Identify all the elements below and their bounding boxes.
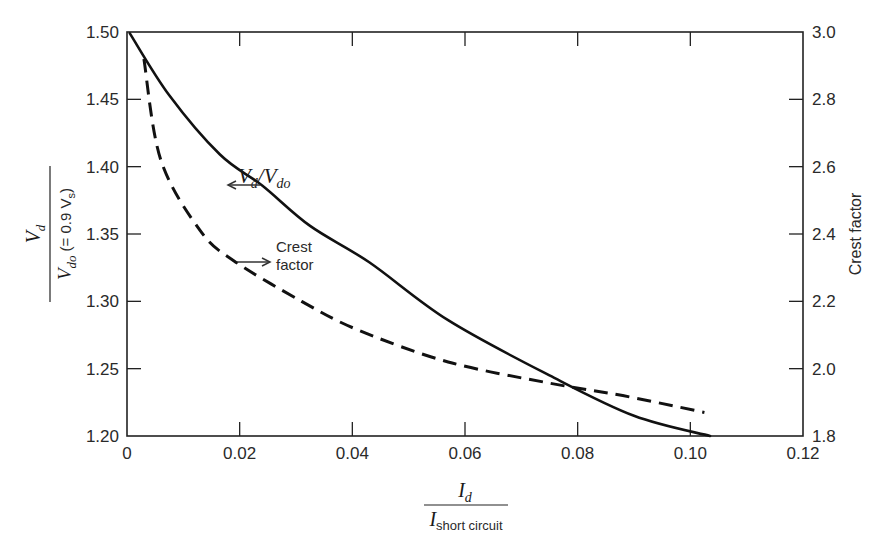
x-tick-label: 0.12: [786, 444, 819, 463]
y-left-tick-label: 1.30: [86, 292, 119, 311]
y-right-tick-label: 3.0: [812, 23, 836, 42]
series-crest-factor-line: [144, 59, 705, 413]
arrow-right-icon: [237, 258, 270, 266]
y-left-tick-label: 1.25: [86, 360, 119, 379]
annotation-crest-label-1: Crest: [276, 238, 313, 255]
y-left-tick-label: 1.45: [86, 90, 119, 109]
y-right-axis-label: Crest factor: [847, 192, 864, 275]
y-left-tick-label: 1.50: [86, 23, 119, 42]
x-tick-label: 0.04: [336, 444, 369, 463]
y-right-tick-label: 2.6: [812, 158, 836, 177]
annotation-vd-vdo-label: Vd/Vdo: [238, 164, 291, 191]
y-right-tick-label: 2.8: [812, 90, 836, 109]
series-vd-vdo-line: [130, 33, 710, 436]
x-tick-label: 0.08: [561, 444, 594, 463]
x-tick-label: 0.02: [223, 444, 256, 463]
x-tick-label: 0.06: [448, 444, 481, 463]
y-right-tick-label: 2.4: [812, 225, 836, 244]
annotation-crest-label-2: factor: [276, 256, 314, 273]
y-left-axis-label: Vd Vdo(= 0.9 Vs): [22, 166, 79, 302]
x-tick-label: 0: [122, 444, 131, 463]
y-right-tick-label: 2.0: [812, 360, 836, 379]
x-axis-ticks: 00.020.040.060.080.100.12: [122, 32, 819, 463]
y-left-axis-ticks: 1.501.451.401.351.301.251.20: [86, 23, 141, 446]
x-label-denominator: Ishort circuit: [428, 508, 503, 533]
plot-frame: [127, 32, 803, 436]
y-left-tick-label: 1.35: [86, 225, 119, 244]
annotation-vd-vdo: Vd/Vdo: [228, 164, 291, 191]
y-left-label-denominator: Vdo(= 0.9 Vs): [54, 188, 79, 280]
y-right-tick-label: 2.2: [812, 292, 836, 311]
y-left-tick-label: 1.20: [86, 427, 119, 446]
y-right-axis-ticks: 3.02.82.62.42.22.01.8: [789, 23, 836, 446]
annotation-crest-factor: Crest factor: [237, 238, 314, 273]
y-left-tick-label: 1.40: [86, 158, 119, 177]
chart-canvas: 00.020.040.060.080.100.12 1.501.451.401.…: [0, 0, 886, 540]
y-right-tick-label: 1.8: [812, 427, 836, 446]
x-tick-label: 0.10: [674, 444, 707, 463]
x-axis-label: Id Ishort circuit: [424, 479, 508, 533]
y-left-label-numerator: Vd: [22, 224, 48, 243]
x-label-numerator: Id: [457, 479, 473, 505]
